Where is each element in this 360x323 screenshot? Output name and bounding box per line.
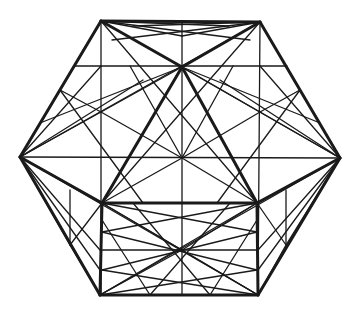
- edge-line: [182, 250, 258, 295]
- edge-line: [260, 66, 340, 158]
- edge-line: [40, 67, 182, 123]
- thin-lines: [20, 21, 340, 295]
- edge-line: [258, 158, 340, 250]
- edge-line: [100, 203, 102, 295]
- edge-line: [210, 220, 257, 295]
- geometric-figure: [0, 0, 360, 323]
- edge-line: [20, 157, 100, 270]
- edge-line: [20, 21, 101, 157]
- edge-line: [70, 203, 102, 245]
- edge-line: [102, 220, 150, 295]
- edge-line: [182, 67, 257, 203]
- edge-line: [20, 157, 100, 250]
- edge-line: [258, 158, 340, 270]
- edge-line: [20, 80, 143, 157]
- edge-line: [20, 157, 100, 295]
- edge-line: [182, 67, 320, 123]
- edge-line: [257, 203, 258, 295]
- edge-line: [220, 80, 340, 158]
- edge-line: [260, 22, 340, 158]
- edge-line: [20, 66, 101, 157]
- hexagon-drawing: [0, 0, 360, 323]
- edge-line: [101, 21, 257, 203]
- edge-line: [101, 21, 260, 22]
